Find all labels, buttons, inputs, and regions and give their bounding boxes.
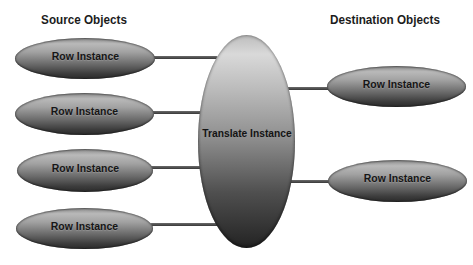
node-label: Row Instance [364,172,431,184]
destination-row-instance-node-2: Row Instance [328,160,467,202]
source-objects-title: Source Objects [21,12,147,27]
source-row-instance-node-2: Row Instance [15,93,154,135]
node-label: Row Instance [51,105,118,117]
node-label: Row Instance [363,78,430,90]
translate-instance-node: Translate Instance [198,35,295,248]
diagram-canvas: Source Objects Destination Objects Row I… [0,0,473,265]
node-label: Row Instance [51,162,118,174]
connector-center-to-destination-1 [286,87,331,90]
connector-source-1-to-center [150,56,218,59]
source-row-instance-node-3: Row Instance [17,149,153,192]
connector-source-2-to-center [150,111,202,114]
node-label: Translate Instance [202,127,291,139]
destination-row-instance-node-1: Row Instance [327,66,466,107]
source-row-instance-node-1: Row Instance [15,38,155,79]
node-label: Row Instance [51,220,118,232]
destination-objects-title: Destination Objects [319,12,450,27]
connector-center-to-destination-2 [289,180,332,183]
connector-source-3-to-center [150,166,202,169]
connector-source-4-to-center [150,223,218,226]
node-label: Row Instance [51,50,118,62]
source-row-instance-node-4: Row Instance [16,208,153,249]
